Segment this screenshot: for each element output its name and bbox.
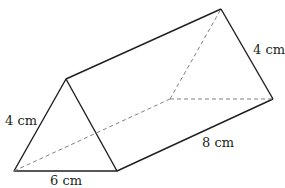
label-back-right-edge: 4 cm (253, 43, 285, 56)
hidden-bottom-left-length-edge (14, 99, 170, 171)
hidden-back-left-edge (170, 9, 221, 99)
bottom-right-length-edge (117, 99, 273, 171)
label-front-left-edge: 4 cm (5, 114, 37, 127)
prism-diagram (0, 0, 285, 188)
top-ridge-edge (66, 9, 221, 79)
hidden-edges (14, 9, 273, 171)
visible-edges (14, 9, 273, 171)
label-front-base: 6 cm (50, 174, 82, 187)
label-length: 8 cm (202, 136, 234, 149)
